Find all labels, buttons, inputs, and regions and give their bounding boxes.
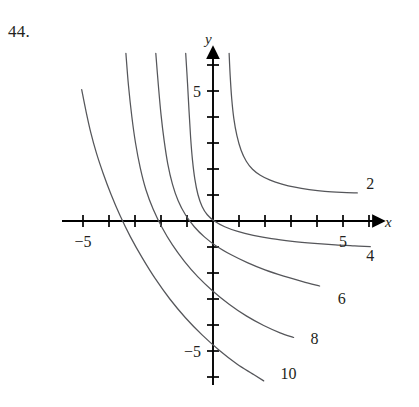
y-tick-label-5: 5 [193,83,201,100]
problem-number: 44. [8,22,30,42]
level-curve-plot: 246810 −55−55 x y [0,0,419,407]
curve-label-6: 6 [338,290,346,307]
x-tick-label-5: 5 [339,233,347,250]
y-axis-label: y [203,31,212,47]
x-axis-label: x [384,214,392,230]
level-curve-2 [229,53,357,193]
y-tick-label-neg5: −5 [184,343,201,360]
curve-label-8: 8 [310,330,318,347]
curve-label-2: 2 [366,175,374,192]
curve-label-10: 10 [280,365,296,382]
figure-container: 44. 246810 −55−55 x y [0,0,419,407]
x-tick-label-neg5: −5 [74,233,91,250]
level-curve-6 [156,53,320,286]
curve-label-4: 4 [366,247,374,264]
curves-group [82,53,371,381]
